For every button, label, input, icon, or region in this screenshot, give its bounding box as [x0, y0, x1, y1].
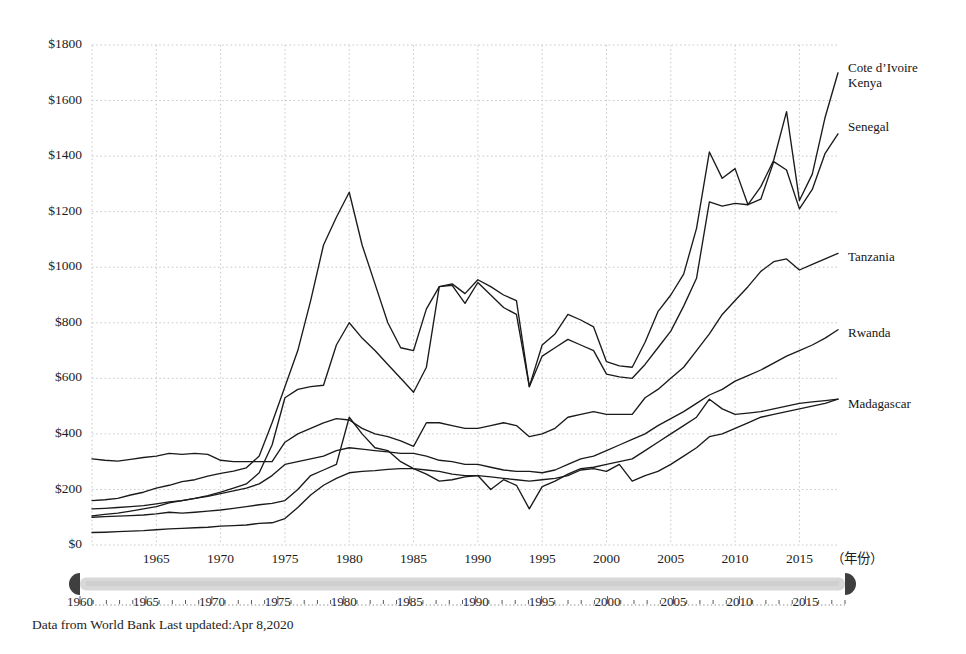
range-slider-fill	[86, 581, 839, 586]
y-tick-label: $800	[55, 314, 82, 329]
line-chart: $0$200$400$600$800$1000$1200$1400$1600$1…	[0, 0, 966, 654]
slider-tick-label: 1990	[463, 594, 489, 609]
series-label: Tanzania	[848, 249, 895, 264]
y-tick-label: $1200	[48, 203, 82, 218]
slider-tick-label: 1960	[67, 594, 93, 609]
range-start-handle[interactable]	[69, 573, 80, 595]
slider-tick-label: 1985	[397, 594, 423, 609]
y-tick-label: $1000	[48, 258, 82, 273]
series-line	[92, 73, 838, 501]
y-axis-ticks: $0$200$400$600$800$1000$1200$1400$1600$1…	[48, 36, 82, 551]
series-layer	[92, 73, 838, 533]
x-tick-label: 2010	[722, 551, 749, 566]
range-end-handle[interactable]	[845, 573, 856, 595]
x-tick-label: 1965	[143, 551, 170, 566]
y-tick-label: $1800	[48, 36, 82, 51]
slider-tick-label: 2000	[595, 594, 621, 609]
series-line	[92, 134, 838, 516]
slider-tick-label: 1970	[199, 594, 225, 609]
x-tick-label: 1995	[529, 551, 556, 566]
y-tick-label: $200	[55, 481, 82, 496]
slider-tick-label: 2015	[792, 594, 818, 609]
slider-tick-label: 1965	[133, 594, 159, 609]
series-labels: Cote d’IvoireKenyaSenegalTanzaniaRwandaM…	[848, 60, 918, 411]
y-tick-label: $400	[55, 425, 82, 440]
grid-layer	[92, 45, 838, 545]
slider-tick-label: 2005	[661, 594, 687, 609]
y-tick-label: $1600	[48, 92, 82, 107]
y-tick-label: $0	[69, 536, 83, 551]
series-label: Madagascar	[848, 396, 911, 411]
series-line	[92, 253, 838, 461]
slider-tick-label: 1980	[331, 594, 357, 609]
series-label: Rwanda	[848, 325, 891, 340]
series-line	[92, 399, 838, 517]
x-axis-ticks: 1965197019751980198519901995200020052010…	[143, 551, 883, 566]
chart-container: $0$200$400$600$800$1000$1200$1400$1600$1…	[0, 0, 966, 654]
series-label: Cote d’Ivoire	[848, 60, 918, 75]
slider-tick-label: 1975	[265, 594, 291, 609]
x-tick-label: 1985	[400, 551, 427, 566]
data-source-note: Data from World Bank Last updated:Apr 8,…	[32, 617, 293, 633]
x-tick-label: 2000	[593, 551, 620, 566]
x-tick-label: 1980	[336, 551, 363, 566]
slider-tick-label: 1995	[529, 594, 555, 609]
range-slider[interactable]: 1960196519701975198019851990199520002005…	[67, 573, 856, 609]
series-line	[92, 399, 838, 532]
x-tick-label: 2015	[786, 551, 813, 566]
series-label: Senegal	[848, 119, 890, 134]
x-tick-label: 1990	[464, 551, 491, 566]
y-tick-label: $1400	[48, 147, 82, 162]
slider-tick-label: 2010	[726, 594, 752, 609]
x-tick-label: 1970	[207, 551, 234, 566]
x-axis-unit-label: （年份）	[831, 551, 883, 566]
x-tick-label: 1975	[271, 551, 298, 566]
y-tick-label: $600	[55, 369, 82, 384]
series-label: Kenya	[848, 75, 882, 90]
x-tick-label: 2005	[657, 551, 684, 566]
series-line	[92, 330, 838, 509]
